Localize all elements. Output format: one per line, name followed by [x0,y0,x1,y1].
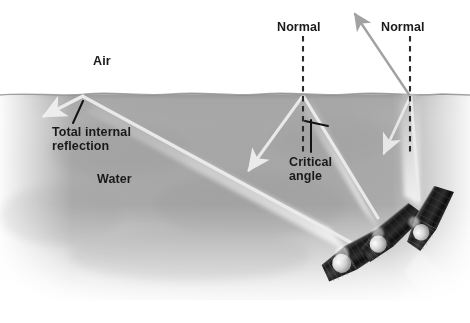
figure-canvas: Air Water Normal Normal Total internal r… [0,0,470,323]
label-total-internal-reflection: Total internal reflection [52,125,131,153]
label-tir-line1: Total internal [52,125,131,139]
label-critical-angle: Critical angle [289,155,332,183]
label-critical-line1: Critical [289,155,332,169]
label-air: Air [93,54,111,68]
label-normal-left: Normal [277,20,321,34]
label-tir-line2: reflection [52,139,131,153]
label-critical-line2: angle [289,169,332,183]
label-water: Water [97,172,132,186]
label-normal-right: Normal [381,20,425,34]
diagram-svg [0,0,470,323]
